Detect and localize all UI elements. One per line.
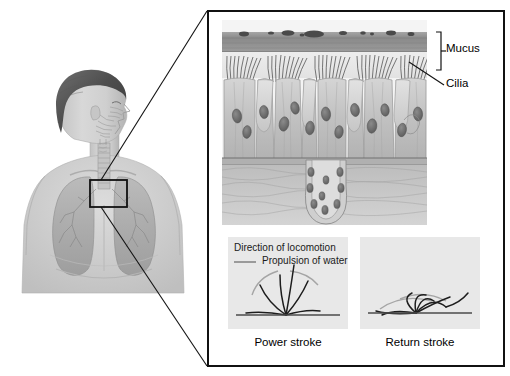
cilia-leader-line [409,62,444,85]
return-stroke-panel [360,237,480,329]
legend-propulsion-label: Propulsion of water [262,255,348,266]
power-stroke-cilia [246,265,320,315]
legend-direction-label: Direction of locomotion [234,242,336,253]
mucus-label: Mucus [446,43,480,55]
figure-root: Mucus Cilia Direction of locomot [0,0,510,376]
cilia-label: Cilia [446,78,468,90]
mucus-bracket [436,32,441,70]
power-stroke-guide-arcs [252,271,318,295]
legend-propulsion-rule [234,261,256,263]
return-stroke-caption: Return stroke [360,337,480,349]
power-stroke-caption: Power stroke [228,337,348,349]
return-stroke-diagram [360,237,480,329]
